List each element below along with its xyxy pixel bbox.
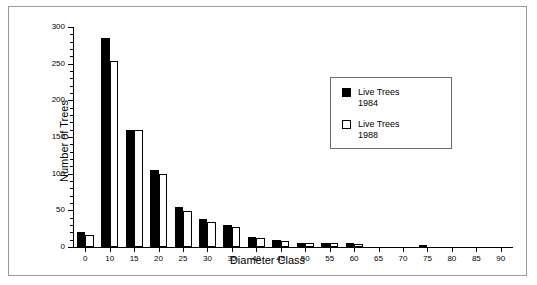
bar	[305, 243, 314, 247]
x-tick-label: 75	[423, 255, 432, 263]
bar	[199, 219, 208, 247]
y-tick-minor	[70, 56, 74, 57]
x-tick-label: 0	[83, 255, 87, 263]
bar	[346, 243, 355, 247]
x-tick-label: 40	[252, 255, 261, 263]
bar	[175, 207, 184, 247]
bar	[223, 225, 232, 247]
legend-swatch-filled-square-icon	[342, 88, 351, 97]
x-tick	[159, 247, 160, 252]
x-tick-label: 90	[496, 255, 505, 263]
x-tick	[427, 247, 428, 252]
x-tick-label: 15	[130, 255, 139, 263]
x-tick	[183, 247, 184, 252]
x-tick	[403, 247, 404, 252]
y-tick-minor	[70, 196, 74, 197]
bar	[248, 237, 257, 247]
legend-label-1984-line2: 1984	[358, 98, 378, 108]
bar	[183, 211, 192, 247]
bar	[150, 170, 159, 247]
x-tick	[281, 247, 282, 252]
x-tick-label: 55	[325, 255, 334, 263]
y-tick-minor	[70, 42, 74, 43]
y-tick-minor	[70, 49, 74, 50]
x-tick	[110, 247, 111, 252]
y-tick-minor	[70, 144, 74, 145]
y-tick-minor	[70, 130, 74, 131]
y-tick-minor	[70, 71, 74, 72]
y-tick-label: 250	[52, 60, 65, 68]
legend-label-1988-line1: Live Trees	[358, 119, 400, 129]
legend-label-1988-line2: 1988	[358, 130, 378, 140]
x-axis-line	[73, 247, 513, 248]
bar	[207, 222, 216, 247]
bar	[110, 61, 119, 247]
bar	[297, 243, 306, 247]
bar	[77, 232, 86, 247]
chart-legend: Live Trees 1984 Live Trees 1988	[330, 77, 452, 149]
legend-label-1984-line1: Live Trees	[358, 87, 400, 97]
x-tick	[501, 247, 502, 252]
y-tick-minor	[70, 218, 74, 219]
x-tick	[232, 247, 233, 252]
y-tick-minor	[70, 152, 74, 153]
bar	[85, 235, 94, 247]
bar	[134, 130, 143, 247]
y-tick-minor	[70, 159, 74, 160]
x-tick-label: 45	[276, 255, 285, 263]
y-tick-minor	[70, 93, 74, 94]
y-tick-minor	[70, 115, 74, 116]
y-tick-minor	[70, 122, 74, 123]
x-tick-label: 70	[399, 255, 408, 263]
y-tick-label: 300	[52, 23, 65, 31]
y-tick-major	[68, 174, 74, 175]
y-tick-minor	[70, 78, 74, 79]
bar	[126, 130, 135, 247]
x-tick-label: 80	[447, 255, 456, 263]
legend-item-1984: Live Trees 1984	[342, 87, 451, 108]
y-tick-label: 50	[56, 206, 65, 214]
bar	[321, 243, 330, 247]
x-tick	[256, 247, 257, 252]
y-tick-minor	[70, 181, 74, 182]
y-tick-major	[68, 210, 74, 211]
x-tick-label: 85	[472, 255, 481, 263]
x-tick-label: 10	[105, 255, 114, 263]
bar	[256, 238, 265, 247]
bar	[272, 240, 281, 247]
x-tick	[452, 247, 453, 252]
y-tick-label: 200	[52, 96, 65, 104]
x-tick-label: 35	[227, 255, 236, 263]
x-tick	[207, 247, 208, 252]
bar	[232, 227, 241, 247]
y-tick-minor	[70, 225, 74, 226]
y-tick-minor	[70, 232, 74, 233]
bar	[101, 38, 110, 247]
bar	[354, 244, 363, 247]
y-tick-minor	[70, 86, 74, 87]
y-tick-minor	[70, 108, 74, 109]
x-tick	[305, 247, 306, 252]
x-tick	[330, 247, 331, 252]
bar	[281, 241, 290, 247]
legend-label-1984: Live Trees 1984	[358, 87, 400, 108]
x-tick-label: 30	[203, 255, 212, 263]
x-tick-label: 20	[154, 255, 163, 263]
y-tick-minor	[70, 203, 74, 204]
x-tick-label: 65	[374, 255, 383, 263]
y-tick-label: 100	[52, 170, 65, 178]
bar	[330, 243, 339, 247]
y-tick-major	[68, 100, 74, 101]
legend-item-1988: Live Trees 1988	[342, 119, 451, 140]
x-tick-label: 25	[179, 255, 188, 263]
x-tick	[354, 247, 355, 252]
y-tick-label: 0	[61, 243, 65, 251]
y-tick-major	[68, 27, 74, 28]
y-tick-minor	[70, 34, 74, 35]
y-tick-major	[68, 137, 74, 138]
legend-swatch-open-square-icon	[342, 120, 351, 129]
x-tick	[134, 247, 135, 252]
legend-label-1988: Live Trees 1988	[358, 119, 400, 140]
bar	[419, 245, 428, 247]
bar	[159, 174, 168, 247]
